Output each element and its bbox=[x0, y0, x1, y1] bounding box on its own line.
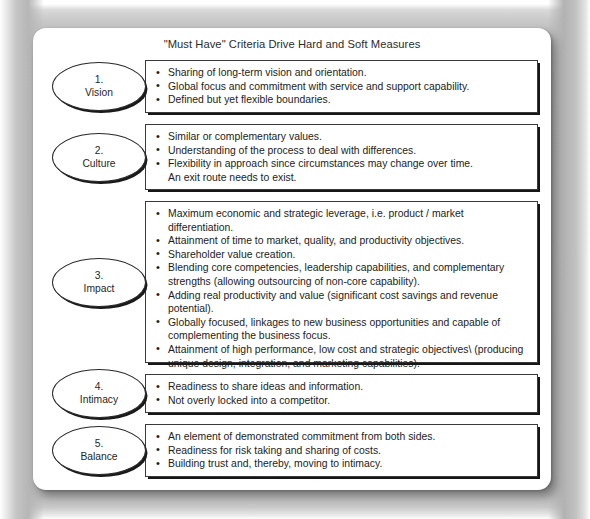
bullet-item: Attainment of time to market, quality, a… bbox=[155, 234, 530, 248]
bullet-item: Shareholder value creation. bbox=[155, 248, 530, 262]
criteria-name: Intimacy bbox=[80, 393, 118, 406]
criteria-name: Impact bbox=[84, 282, 115, 295]
criteria-name: Vision bbox=[85, 86, 113, 99]
bullet-list: Maximum economic and strategic leverage,… bbox=[146, 202, 537, 375]
criteria-bullet-box: Readiness to share ideas and information… bbox=[145, 374, 538, 413]
criteria-bullet-box: Sharing of long-term vision and orientat… bbox=[145, 60, 538, 113]
bullet-item: Readiness to share ideas and information… bbox=[155, 380, 530, 394]
criteria-oval-culture[interactable]: 2.Culture bbox=[52, 133, 146, 182]
criteria-number: 3. bbox=[95, 270, 104, 282]
bullet-list: Readiness to share ideas and information… bbox=[146, 375, 537, 412]
criteria-bullet-box: An element of demonstrated commitment fr… bbox=[145, 424, 538, 477]
bullet-item: Flexibility in approach since circumstan… bbox=[155, 157, 530, 171]
bullet-item: Defined but yet flexible boundaries. bbox=[155, 93, 530, 107]
criteria-row: 3.ImpactMaximum economic and strategic l… bbox=[33, 201, 551, 374]
criteria-oval-intimacy[interactable]: 4.Intimacy bbox=[52, 369, 146, 418]
criteria-number: 5. bbox=[95, 438, 104, 450]
bullet-item: Understanding of the process to deal wit… bbox=[155, 144, 530, 158]
bullet-item: Readiness for risk taking and sharing of… bbox=[155, 444, 530, 458]
bullet-item: Blending core competencies, leadership c… bbox=[155, 261, 530, 288]
bullet-list: An element of demonstrated commitment fr… bbox=[146, 425, 537, 476]
criteria-oval-vision[interactable]: 1.Vision bbox=[52, 62, 146, 111]
criteria-number: 1. bbox=[95, 74, 104, 86]
bullet-item: Maximum economic and strategic leverage,… bbox=[155, 207, 530, 234]
criteria-bullet-box: Maximum economic and strategic leverage,… bbox=[145, 201, 538, 363]
bullet-list: Similar or complementary values.Understa… bbox=[146, 125, 537, 189]
bullet-item: An exit route needs to exist. bbox=[155, 171, 530, 185]
bullet-item: Similar or complementary values. bbox=[155, 130, 530, 144]
criteria-bullet-box: Similar or complementary values.Understa… bbox=[145, 124, 538, 190]
criteria-name: Culture bbox=[82, 157, 115, 170]
page-title: "Must Have" Criteria Drive Hard and Soft… bbox=[33, 38, 551, 50]
criteria-oval-balance[interactable]: 5.Balance bbox=[52, 426, 146, 475]
page-root: "Must Have" Criteria Drive Hard and Soft… bbox=[0, 0, 590, 519]
bullet-item: An element of demonstrated commitment fr… bbox=[155, 430, 530, 444]
criteria-oval-impact[interactable]: 3.Impact bbox=[52, 258, 146, 307]
bullet-item: Not overly locked into a competitor. bbox=[155, 394, 530, 408]
criteria-row: 4.IntimacyReadiness to share ideas and i… bbox=[33, 374, 551, 424]
criteria-name: Balance bbox=[80, 450, 117, 463]
criteria-number: 2. bbox=[95, 145, 104, 157]
bullet-item: Attainment of high performance, low cost… bbox=[155, 343, 530, 370]
bullet-item: Globally focused, linkages to new busine… bbox=[155, 316, 530, 343]
bullet-item: Building trust and, thereby, moving to i… bbox=[155, 457, 530, 471]
criteria-rows: 1.VisionSharing of long-term vision and … bbox=[33, 60, 551, 488]
diagram-card: "Must Have" Criteria Drive Hard and Soft… bbox=[33, 28, 551, 490]
criteria-row: 5.BalanceAn element of demonstrated comm… bbox=[33, 424, 551, 488]
criteria-row: 1.VisionSharing of long-term vision and … bbox=[33, 60, 551, 124]
bullet-item: Adding real productivity and value (sign… bbox=[155, 289, 530, 316]
bullet-item: Global focus and commitment with service… bbox=[155, 80, 530, 94]
criteria-number: 4. bbox=[95, 381, 104, 393]
bullet-item: Sharing of long-term vision and orientat… bbox=[155, 66, 530, 80]
bullet-list: Sharing of long-term vision and orientat… bbox=[146, 61, 537, 112]
criteria-row: 2.CultureSimilar or complementary values… bbox=[33, 124, 551, 201]
